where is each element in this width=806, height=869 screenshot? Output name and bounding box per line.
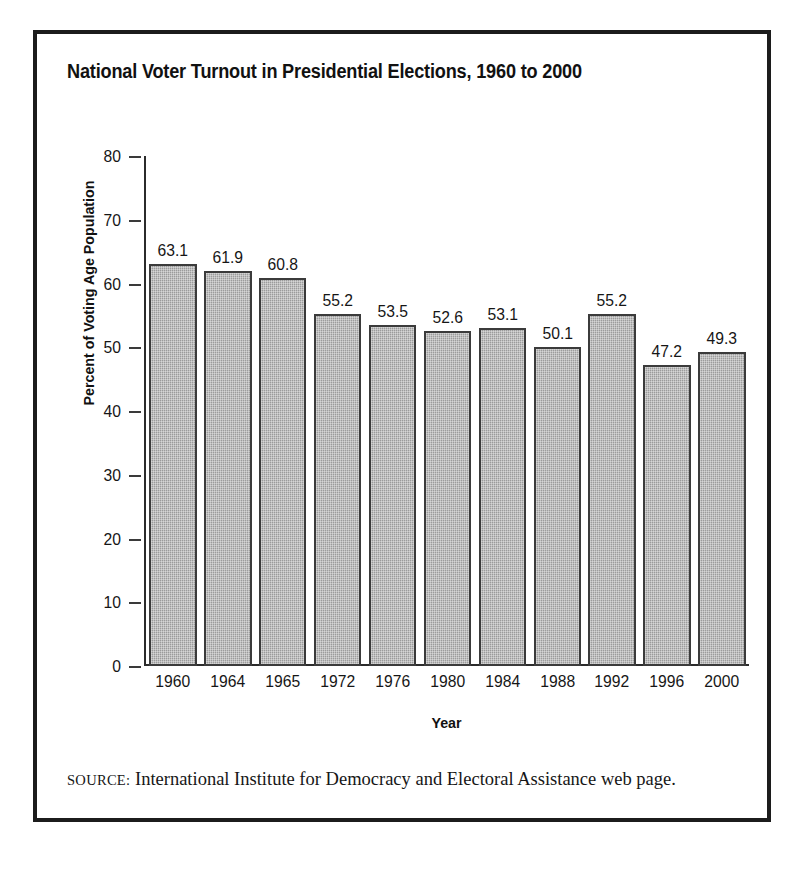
y-axis-tick-label-wrap: 30 <box>69 466 121 486</box>
y-axis-tick-label: 70 <box>81 211 121 230</box>
bar-group[interactable]: 49.32000 <box>698 156 745 666</box>
bar-group[interactable]: 61.91964 <box>204 156 251 666</box>
bar[interactable] <box>259 278 306 666</box>
x-axis-tick-label: 2000 <box>688 672 756 691</box>
bar[interactable] <box>534 347 581 666</box>
bar-value-label: 49.3 <box>686 329 758 348</box>
y-axis-tick-label: 80 <box>81 147 121 166</box>
bar[interactable] <box>588 314 635 666</box>
y-axis-tick <box>129 156 141 158</box>
bar[interactable] <box>149 264 196 666</box>
y-axis-tick <box>129 539 141 541</box>
y-axis-tick-label: 60 <box>81 275 121 294</box>
y-axis-tick <box>129 602 141 604</box>
y-axis-tick-label-wrap: 0 <box>69 657 121 677</box>
chart-plot-area: Percent of Voting Age Population 8070605… <box>37 34 767 818</box>
y-axis-tick <box>129 411 141 413</box>
bar-group[interactable]: 47.21996 <box>643 156 690 666</box>
bar-group[interactable]: 50.11988 <box>534 156 581 666</box>
bar-value-label: 60.8 <box>247 255 319 274</box>
y-axis-tick-label-wrap: 70 <box>69 211 121 231</box>
bar[interactable] <box>369 325 416 666</box>
bar-value-label: 55.2 <box>576 291 648 310</box>
y-axis-tick-label: 50 <box>81 338 121 357</box>
source-label: SOURCE: <box>67 772 130 788</box>
y-axis-tick <box>129 284 141 286</box>
bar[interactable] <box>479 328 526 667</box>
source-note: SOURCE: International Institute for Demo… <box>67 769 743 790</box>
bar[interactable] <box>424 331 471 666</box>
bar-group[interactable]: 53.51976 <box>369 156 416 666</box>
y-axis-tick-label: 0 <box>81 657 121 676</box>
y-axis-tick <box>129 666 141 668</box>
y-axis-tick-label-wrap: 80 <box>69 147 121 167</box>
y-axis-tick-label-wrap: 50 <box>69 338 121 358</box>
bar[interactable] <box>204 271 251 666</box>
bar-value-label: 50.1 <box>521 324 593 343</box>
y-axis-tick-label-wrap: 10 <box>69 593 121 613</box>
bar-group[interactable]: 60.81965 <box>259 156 306 666</box>
bar-group[interactable]: 55.21992 <box>588 156 635 666</box>
y-axis-tick-label-wrap: 20 <box>69 530 121 550</box>
y-axis-tick-label: 20 <box>81 530 121 549</box>
y-axis-tick-label-wrap: 40 <box>69 402 121 422</box>
y-axis-tick <box>129 220 141 222</box>
bar[interactable] <box>314 314 361 666</box>
bar-group[interactable]: 55.21972 <box>314 156 361 666</box>
y-axis-tick-label: 10 <box>81 593 121 612</box>
bar[interactable] <box>643 365 690 666</box>
y-axis-tick <box>129 475 141 477</box>
y-axis-tick-label: 30 <box>81 466 121 485</box>
bar-group[interactable]: 53.11984 <box>479 156 526 666</box>
bar-group[interactable]: 63.11960 <box>149 156 196 666</box>
bar-value-label: 53.1 <box>467 305 539 324</box>
bars-layer: 63.1196061.9196460.8196555.2197253.51976… <box>146 156 750 666</box>
y-axis-tick-label: 40 <box>81 402 121 421</box>
y-axis-tick <box>129 347 141 349</box>
source-text: International Institute for Democracy an… <box>130 769 676 789</box>
x-axis-title: Year <box>168 714 725 732</box>
y-axis-tick-label-wrap: 60 <box>69 275 121 295</box>
bar-group[interactable]: 52.61980 <box>424 156 471 666</box>
figure-frame: National Voter Turnout in Presidential E… <box>33 30 771 822</box>
bar[interactable] <box>698 352 745 666</box>
